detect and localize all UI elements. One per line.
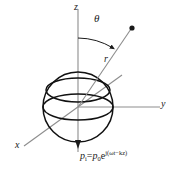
formula-exponent: j(ωt−kz): [105, 149, 127, 156]
figure-container: z y x θ r pi=p0ej(ωt−kz): [0, 0, 178, 175]
theta-arc: [78, 38, 113, 48]
incident-pressure-formula: pi=p0ej(ωt−kz): [80, 150, 127, 163]
radius-ray-line: [78, 29, 131, 107]
y-axis-label: y: [161, 99, 165, 109]
x-axis-label: x: [15, 140, 19, 150]
radius-label: r: [104, 54, 108, 64]
z-axis-label: z: [74, 2, 78, 12]
wave-direction-arrowhead: [75, 140, 81, 149]
theta-angle-label: θ: [94, 13, 99, 24]
point-marker-dot: [129, 25, 134, 30]
spherical-coordinate-diagram: [0, 0, 178, 175]
